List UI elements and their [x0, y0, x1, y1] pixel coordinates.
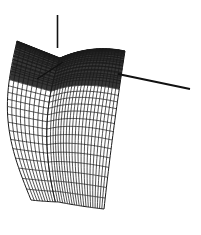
figure-root: [0, 0, 201, 235]
mesh-surface-plot: [0, 0, 201, 235]
